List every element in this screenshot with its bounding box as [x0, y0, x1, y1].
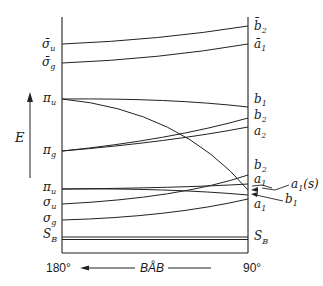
callout-a1s: a1(s): [291, 177, 319, 193]
svg-text:πg: πg: [42, 143, 56, 159]
correlation-diagram: E σ̄u σ̄g πu πg πu σu σg SB b̄2 ā1 b1 b2…: [0, 0, 323, 286]
x-axis-right-value: 90°: [243, 261, 261, 275]
line-pi-u-a1s: [62, 99, 248, 190]
arrow-left-icon: [251, 187, 258, 192]
svg-text:πu: πu: [42, 180, 56, 196]
arrow-up-icon: [27, 92, 33, 102]
svg-text:a1: a1: [254, 197, 266, 213]
callout-b1: b1: [285, 192, 298, 208]
line-pi-u-b1-lower: [62, 189, 248, 195]
line-pi-u-a1: [62, 184, 248, 189]
left-level-labels: σ̄u σ̄g πu πg πu σu σg SB: [42, 37, 57, 244]
svg-text:ā1: ā1: [254, 37, 266, 53]
x-axis-label: BÅB: [140, 260, 164, 275]
svg-text:b2: b2: [254, 108, 267, 124]
right-level-labels: b̄2 ā1 b1 b2 a2 b2 a1 a1 SB: [254, 17, 268, 246]
x-axis-left-value: 180°: [46, 261, 71, 275]
svg-text:SB: SB: [254, 229, 268, 246]
line-sigma-g-star-a1-star: [62, 44, 248, 63]
svg-text:σ̄g: σ̄g: [42, 55, 55, 71]
arrow-left-icon: [80, 266, 89, 271]
line-sigma-u-star-b2-star: [62, 26, 248, 44]
svg-text:a2: a2: [254, 124, 266, 140]
svg-text:σu: σu: [43, 195, 56, 211]
svg-text:SB: SB: [43, 227, 57, 244]
svg-text:σ̄u: σ̄u: [42, 37, 55, 53]
line-pi-g-b2: [62, 118, 248, 151]
svg-text:b1: b1: [254, 92, 267, 108]
svg-text:πu: πu: [42, 91, 56, 107]
correlation-lines: [62, 26, 248, 240]
svg-text:b̄2: b̄2: [254, 17, 267, 35]
svg-text:σg: σg: [43, 211, 56, 227]
energy-label: E: [14, 130, 25, 145]
